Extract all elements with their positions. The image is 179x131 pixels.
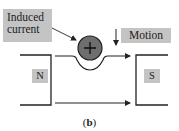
conductor bbox=[78, 36, 102, 60]
motion-label: Motion bbox=[121, 28, 171, 43]
north-pole-label: N bbox=[32, 69, 48, 83]
figure-caption: (b) bbox=[0, 116, 179, 128]
induced-current-label: Induced current bbox=[3, 9, 52, 42]
induced-current-pointer bbox=[52, 28, 76, 40]
caption-paren-close: ) bbox=[93, 116, 97, 128]
south-pole-label: S bbox=[144, 69, 160, 83]
